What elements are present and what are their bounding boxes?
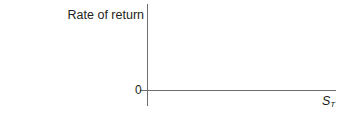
chart-axes [0,0,359,119]
y-tick-zero: 0 [135,83,142,97]
y-axis-label: Rate of return [68,8,144,22]
x-axis-label: ST [322,94,335,109]
x-axis-label-subscript: T [330,100,335,109]
